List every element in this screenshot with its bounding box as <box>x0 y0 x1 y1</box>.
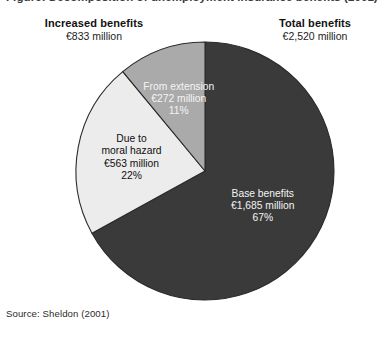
source-note: Source: Sheldon (2001) <box>6 308 110 319</box>
pie-chart: Base benefits€1,685 million67%Due tomora… <box>0 0 389 345</box>
